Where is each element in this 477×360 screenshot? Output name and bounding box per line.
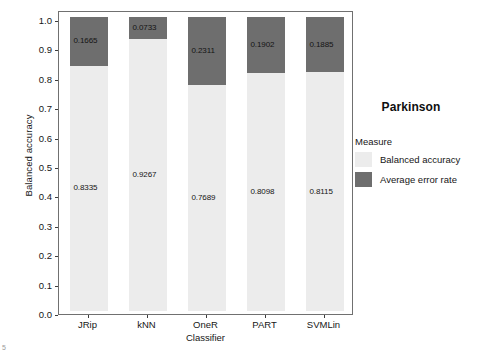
chart-figure: Balanced accuracy 0.00.10.20.30.40.50.60… bbox=[0, 0, 477, 360]
bar-value-label-balanced-accuracy: 0.9267 bbox=[133, 171, 157, 179]
y-tick-label: 0.8 bbox=[39, 75, 52, 85]
legend-swatch bbox=[355, 152, 372, 167]
y-tick-label: 0.4 bbox=[39, 193, 52, 203]
legend-title: Parkinson bbox=[355, 100, 477, 114]
bar-value-label-average-error-rate: 0.2311 bbox=[192, 47, 215, 55]
bar-value-label-balanced-accuracy: 0.8098 bbox=[251, 188, 275, 196]
x-tick-label-knn: kNN bbox=[137, 320, 155, 330]
bar-value-label-average-error-rate: 0.1885 bbox=[310, 41, 334, 49]
bar-group[interactable] bbox=[129, 17, 167, 311]
legend-item-label: Average error rate bbox=[380, 174, 457, 185]
y-tick-label: 1.0 bbox=[39, 16, 52, 26]
bar-value-label-balanced-accuracy: 0.7689 bbox=[192, 194, 216, 202]
legend: Parkinson Measure Balanced accuracyAvera… bbox=[355, 100, 477, 187]
x-tick-mark bbox=[324, 315, 325, 318]
bar-value-label-balanced-accuracy: 0.8335 bbox=[74, 184, 98, 192]
legend-item[interactable]: Balanced accuracy bbox=[355, 152, 477, 167]
x-tick-mark bbox=[265, 315, 266, 318]
bar-group[interactable] bbox=[306, 17, 344, 311]
x-tick-mark bbox=[88, 315, 89, 318]
legend-subtitle: Measure bbox=[355, 136, 477, 147]
y-tick-label: 0.7 bbox=[39, 104, 52, 114]
x-tick-label-oner: OneR bbox=[193, 320, 218, 330]
bar-value-label-average-error-rate: 0.1665 bbox=[74, 37, 98, 45]
x-tick-label-jrip: JRip bbox=[78, 320, 97, 330]
bar-group[interactable] bbox=[70, 17, 108, 311]
y-tick-label: 0.2 bbox=[39, 251, 52, 261]
bar-value-label-balanced-accuracy: 0.8115 bbox=[310, 188, 333, 196]
bar-group[interactable] bbox=[247, 17, 285, 311]
x-tick-mark bbox=[206, 315, 207, 318]
plot-panel: 0.83350.16650.92670.07330.76890.23110.80… bbox=[58, 11, 353, 315]
y-tick-label: 0.1 bbox=[39, 281, 52, 291]
bar-group[interactable] bbox=[188, 17, 226, 311]
y-tick-label: 0.3 bbox=[39, 222, 52, 232]
y-axis: 0.00.10.20.30.40.50.60.70.80.91.0 bbox=[22, 16, 58, 310]
x-axis-title: Classifier bbox=[58, 332, 353, 343]
page-number-artifact: 5 bbox=[2, 344, 6, 351]
x-tick-mark bbox=[147, 315, 148, 318]
x-tick-label-part: PART bbox=[252, 320, 276, 330]
y-tick-label: 0.5 bbox=[39, 163, 52, 173]
legend-items: Balanced accuracyAverage error rate bbox=[355, 152, 477, 187]
y-tick-label: 0.0 bbox=[39, 310, 52, 320]
legend-item-label: Balanced accuracy bbox=[380, 154, 460, 165]
legend-swatch bbox=[355, 172, 372, 187]
bar-value-label-average-error-rate: 0.0733 bbox=[133, 24, 157, 32]
x-tick-label-svmlin: SVMLin bbox=[307, 320, 340, 330]
y-tick-label: 0.6 bbox=[39, 134, 52, 144]
bar-value-label-average-error-rate: 0.1902 bbox=[251, 41, 275, 49]
plot-area: 0.83350.16650.92670.07330.76890.23110.80… bbox=[59, 17, 352, 311]
y-tick-label: 0.9 bbox=[39, 46, 52, 56]
legend-item[interactable]: Average error rate bbox=[355, 172, 477, 187]
